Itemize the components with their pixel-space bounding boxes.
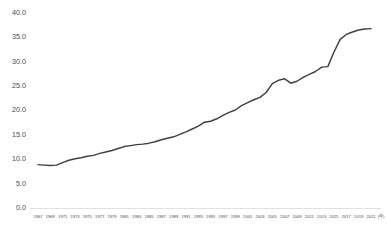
x-axis-tick-label: 2013 bbox=[317, 214, 327, 219]
x-axis-tick-label: 2005 bbox=[268, 214, 278, 219]
x-axis-tick-label: 1973 bbox=[70, 214, 80, 219]
x-axis-tick-label: 1967 bbox=[33, 214, 43, 219]
x-axis-tick-label: 1969 bbox=[46, 214, 56, 219]
x-axis-tick-label: 1991 bbox=[181, 214, 191, 219]
x-axis-tick-label: 2011 bbox=[305, 214, 315, 219]
x-axis-tick-label: 1997 bbox=[218, 214, 228, 219]
y-axis-tick-label: 35.0 bbox=[12, 32, 26, 41]
x-axis-tick-label: 1977 bbox=[95, 214, 105, 219]
y-axis-tick-label: 25.0 bbox=[12, 81, 26, 90]
y-axis-tick-label: 5.0 bbox=[16, 179, 26, 188]
x-axis-tick-label: 2003 bbox=[255, 214, 265, 219]
x-axis-tick-labels: 1967196919711973197519771979198119831985… bbox=[33, 213, 385, 219]
x-axis-tick-label: 1985 bbox=[144, 214, 154, 219]
y-axis-tick-label: 15.0 bbox=[12, 130, 26, 139]
x-axis-tick-label: 1993 bbox=[194, 214, 204, 219]
x-axis-tick-label: 1995 bbox=[206, 214, 216, 219]
y-axis-tick-label: 10.0 bbox=[12, 154, 26, 163]
x-axis-tick-label: 1971 bbox=[58, 214, 68, 219]
x-axis-tick-label: 2017 bbox=[342, 214, 352, 219]
x-axis-tick-label: 1983 bbox=[132, 214, 142, 219]
y-axis-tick-label: 20.0 bbox=[12, 105, 26, 114]
x-axis-tick-label: 1999 bbox=[231, 214, 241, 219]
y-axis-tick-labels: 0.05.010.015.020.025.030.035.040.0 bbox=[12, 8, 26, 212]
x-axis-tick-label: 2019 bbox=[354, 214, 364, 219]
data-series-line bbox=[38, 29, 371, 166]
x-axis-tick-label: 1987 bbox=[157, 214, 167, 219]
x-axis-tick-label: 1981 bbox=[120, 214, 130, 219]
x-axis-tick-label: 2001 bbox=[243, 214, 253, 219]
x-axis-tick-label: 1975 bbox=[83, 214, 93, 219]
x-axis-unit-label: (年) bbox=[378, 213, 385, 219]
chart-container: 0.05.010.015.020.025.030.035.040.0 19671… bbox=[0, 0, 388, 232]
y-axis-tick-label: 0.0 bbox=[16, 203, 26, 212]
x-axis-tick-label: 2021 bbox=[366, 214, 376, 219]
y-axis-tick-label: 30.0 bbox=[12, 57, 26, 66]
x-axis-tick-label: 2015 bbox=[329, 214, 339, 219]
line-chart: 0.05.010.015.020.025.030.035.040.0 19671… bbox=[0, 0, 388, 232]
x-axis-tick-label: 1989 bbox=[169, 214, 179, 219]
y-axis-tick-label: 40.0 bbox=[12, 8, 26, 17]
x-axis-tick-label: 1979 bbox=[107, 214, 117, 219]
x-axis-tick-label: 2007 bbox=[280, 214, 290, 219]
x-axis-tick-label: 2009 bbox=[292, 214, 302, 219]
